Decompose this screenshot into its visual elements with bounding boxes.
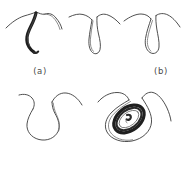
panel-c: (c) <box>122 2 186 62</box>
panel-e: (e) <box>96 86 184 148</box>
panel-c-drawing <box>122 2 186 62</box>
panel-b-label: (b) <box>132 66 188 76</box>
panel-b-drawing <box>66 2 124 62</box>
figure-root: (a) (b) (c) <box>0 0 188 173</box>
panel-a-drawing <box>4 2 68 62</box>
panel-a: (a) <box>4 2 68 62</box>
panel-e-drawing <box>96 86 184 148</box>
panel-b: (b) <box>66 2 124 62</box>
filament-end-dot <box>37 51 39 53</box>
panel-a-label: (a) <box>8 66 72 76</box>
panel-d-drawing <box>16 88 94 146</box>
panel-d: (d) <box>16 88 94 146</box>
